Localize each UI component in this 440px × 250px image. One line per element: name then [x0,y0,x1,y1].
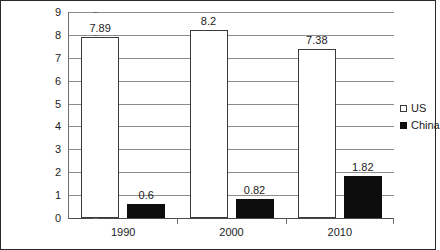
y-axis-tick-label: 1 [35,190,61,201]
bar-us-2010 [298,49,336,218]
legend-label: US [411,103,426,114]
y-axis-tick-label: 4 [35,121,61,132]
bar-china-1990 [127,204,165,218]
legend-label: China [411,120,440,131]
chart-legend: USChina [400,100,436,134]
bar-value-label: 8.2 [201,16,216,27]
y-axis-tick-label: 8 [35,30,61,41]
bar-value-label: 0.82 [244,185,265,196]
y-axis-tick-label: 0 [35,213,61,224]
y-axis-tick-label: 5 [35,99,61,110]
x-axis-label-2000: 2000 [219,227,243,238]
legend-swatch-icon [400,122,407,129]
y-axis-tick-label: 9 [35,7,61,18]
legend-swatch-icon [400,105,407,112]
bar-us-2000 [190,30,228,218]
bar-value-label: 7.38 [306,35,327,46]
y-axis-tick-label: 3 [35,144,61,155]
legend-item-china: China [400,117,436,134]
x-axis-label-1990: 1990 [111,227,135,238]
x-axis-tick-mark [393,218,394,224]
x-axis-tick-mark [286,218,287,224]
bar-us-1990 [81,37,119,218]
y-axis-tick-label: 2 [35,167,61,178]
x-axis-tick-mark [177,218,178,224]
y-axis-ticks: 0123456789 [31,12,61,218]
y-axis-tick-label: 7 [35,53,61,64]
bar-china-2010 [344,176,382,218]
legend-item-us: US [400,100,436,117]
y-axis-tick-label: 6 [35,76,61,87]
plot-area: 7.890.68.20.827.381.82 [69,12,394,218]
bar-value-label: 7.89 [89,23,110,34]
bar-china-2000 [236,199,274,218]
x-axis: 199020002010 [69,218,394,242]
bar-value-label: 0.6 [139,190,154,201]
x-axis-label-2010: 2010 [328,227,352,238]
bar-value-label: 1.82 [352,162,373,173]
